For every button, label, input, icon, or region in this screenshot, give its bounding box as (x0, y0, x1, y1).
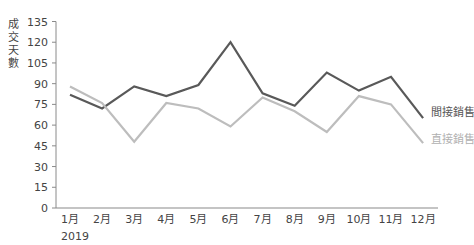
x-tick-label: 3月 (125, 213, 143, 226)
x-tick-label: 8月 (286, 213, 304, 226)
y-tick-label: 105 (27, 57, 48, 70)
legend-label: 間接銷售 (431, 105, 474, 119)
x-tick-label: 2月 (93, 213, 111, 226)
x-tick-label: 7月 (254, 213, 272, 226)
series-lines (70, 42, 423, 143)
x-tick-label: 4月 (157, 213, 175, 226)
y-tick-label: 45 (34, 140, 48, 153)
y-axis: 0153045607590105120135 (27, 16, 56, 216)
line-chart: 成交天數 0153045607590105120135 1月2月3月4月5月6月… (0, 0, 474, 245)
x-tick-label: 6月 (222, 213, 240, 226)
x-tick-label: 12月 (411, 213, 436, 226)
x-tick-label: 10月 (346, 213, 371, 226)
y-tick-label: 60 (34, 119, 48, 132)
y-axis-label-char: 數 (8, 57, 19, 70)
x-tick-label: 1月 (61, 213, 79, 226)
y-tick-label: 75 (34, 98, 48, 111)
legend-label: 直接銷售 (431, 132, 474, 146)
y-tick-label: 90 (34, 78, 48, 91)
y-axis-label-char: 天 (8, 44, 19, 57)
y-axis-label-char: 成 (8, 18, 19, 31)
x-tick-label: 11月 (379, 213, 404, 226)
y-axis-label-char: 交 (8, 30, 19, 44)
y-tick-label: 135 (27, 16, 48, 29)
y-tick-label: 0 (41, 202, 48, 215)
x-tick-label: 5月 (189, 213, 207, 226)
y-tick-label: 120 (27, 36, 48, 49)
y-axis-label: 成交天數 (8, 18, 19, 70)
y-tick-label: 15 (34, 181, 48, 194)
x-tick-label: 9月 (318, 213, 336, 226)
x-axis: 1月2月3月4月5月6月7月8月9月10月11月12月 (56, 208, 438, 226)
y-tick-label: 30 (34, 161, 48, 174)
series-line (70, 42, 423, 118)
x-axis-year-label: 2019 (61, 230, 89, 243)
legend: 間接銷售直接銷售 (431, 105, 474, 146)
chart-canvas: 成交天數 0153045607590105120135 1月2月3月4月5月6月… (0, 0, 474, 245)
